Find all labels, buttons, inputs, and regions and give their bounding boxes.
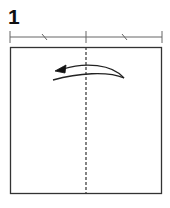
- measure-bar: [10, 31, 162, 43]
- origami-diagram: [0, 0, 170, 208]
